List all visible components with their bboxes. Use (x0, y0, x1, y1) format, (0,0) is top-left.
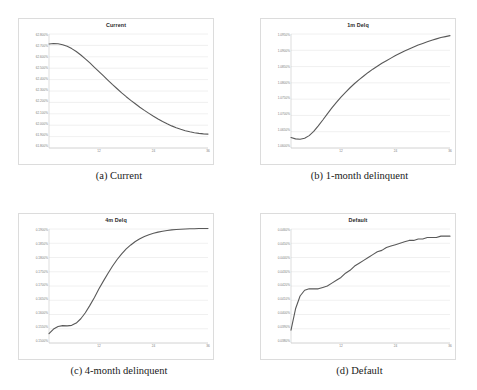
y-tick-label: 0.0430% (278, 270, 290, 273)
y-tick-label: 0.0400% (278, 312, 290, 315)
x-tick-label: 12 (339, 150, 342, 153)
y-tick-label: 0.1700% (36, 284, 48, 287)
x-axis-labels: 122436 (49, 345, 208, 352)
chart-panel-default: Default 0.0460%0.0450%0.0440%0.0430%0.04… (260, 213, 456, 360)
y-tick-label: 1.0600% (278, 145, 290, 148)
y-axis-labels: 1.0950%1.0900%1.0850%1.0800%1.0750%1.070… (263, 34, 290, 148)
y-tick-label: 0.1800% (36, 256, 48, 259)
y-tick-label: 0.0450% (278, 243, 290, 246)
y-tick-label: 0.0460% (278, 229, 290, 232)
y-tick-label: 0.0440% (278, 256, 290, 259)
x-tick-label: 12 (97, 345, 100, 348)
x-tick-label: 12 (339, 345, 342, 348)
y-tick-label: 1.0950% (278, 34, 290, 37)
y-tick-label: 0.1550% (36, 326, 48, 329)
plot-area (49, 229, 208, 343)
y-tick-label: 61.800% (36, 144, 48, 147)
figure-caption: (d) Default (242, 365, 477, 377)
y-tick-label: 0.0420% (278, 284, 290, 287)
chart-panel-1m-delq: 1m Delq 1.0950%1.0900%1.0850%1.0800%1.07… (260, 18, 456, 165)
chart-svg (291, 229, 450, 343)
chart-svg (49, 34, 208, 148)
figure-caption: (b) 1-month delinquent (242, 170, 477, 182)
x-tick-label: 36 (448, 345, 451, 348)
y-tick-label: 0.0410% (278, 298, 290, 301)
x-tick-label: 24 (394, 150, 397, 153)
x-tick-label: 36 (206, 150, 209, 153)
y-tick-label: 0.1750% (36, 270, 48, 273)
x-tick-label: 36 (206, 345, 209, 348)
y-tick-label: 0.1900% (36, 229, 48, 232)
x-tick-label: 24 (152, 150, 155, 153)
plot-area (291, 229, 450, 343)
y-tick-label: 62.600% (36, 56, 48, 59)
figure-grid: Current 62.800%62.700%62.600%62.500%62.4… (0, 0, 477, 390)
chart-svg (49, 229, 208, 343)
chart-title: 1m Delq (261, 23, 455, 28)
chart-svg (291, 34, 450, 148)
x-axis-labels: 122436 (49, 150, 208, 157)
series-line (291, 236, 450, 330)
y-tick-label: 62.800% (36, 34, 48, 37)
chart-panel-current: Current 62.800%62.700%62.600%62.500%62.4… (18, 18, 214, 165)
y-tick-label: 0.1600% (36, 312, 48, 315)
y-tick-label: 1.0800% (278, 81, 290, 84)
x-tick-label: 24 (394, 345, 397, 348)
y-tick-label: 1.0650% (278, 129, 290, 132)
y-tick-label: 0.1650% (36, 298, 48, 301)
y-axis-labels: 0.1900%0.1850%0.1800%0.1750%0.1700%0.165… (21, 229, 48, 343)
y-tick-label: 0.1500% (36, 340, 48, 343)
figure-cell-d: Default 0.0460%0.0450%0.0440%0.0430%0.04… (238, 195, 477, 390)
y-tick-label: 1.0900% (278, 50, 290, 53)
y-tick-label: 1.0750% (278, 97, 290, 100)
chart-title: 4m Delq (19, 218, 213, 223)
x-tick-label: 36 (448, 150, 451, 153)
series-line (49, 44, 208, 135)
figure-caption: (a) Current (0, 170, 238, 182)
chart-panel-4m-delq: 4m Delq 0.1900%0.1850%0.1800%0.1750%0.17… (18, 213, 214, 360)
figure-cell-b: 1m Delq 1.0950%1.0900%1.0850%1.0800%1.07… (238, 0, 477, 195)
y-tick-label: 62.700% (36, 45, 48, 48)
y-tick-label: 62.200% (36, 100, 48, 103)
y-tick-label: 62.100% (36, 111, 48, 114)
y-tick-label: 1.0700% (278, 113, 290, 116)
plot-area (291, 34, 450, 148)
x-axis-labels: 122436 (291, 345, 450, 352)
figure-caption: (c) 4-month delinquent (0, 365, 238, 377)
y-tick-label: 0.1850% (36, 243, 48, 246)
y-tick-label: 0.0390% (278, 326, 290, 329)
y-tick-label: 62.500% (36, 67, 48, 70)
y-tick-label: 0.0380% (278, 340, 290, 343)
figure-cell-a: Current 62.800%62.700%62.600%62.500%62.4… (0, 0, 238, 195)
x-tick-label: 12 (97, 150, 100, 153)
chart-title: Default (261, 218, 455, 223)
y-tick-label: 62.000% (36, 122, 48, 125)
figure-cell-c: 4m Delq 0.1900%0.1850%0.1800%0.1750%0.17… (0, 195, 238, 390)
chart-title: Current (19, 23, 213, 28)
y-tick-label: 1.0850% (278, 65, 290, 68)
x-tick-label: 24 (152, 345, 155, 348)
plot-area (49, 34, 208, 148)
y-tick-label: 62.300% (36, 89, 48, 92)
series-line (49, 228, 208, 333)
y-axis-labels: 0.0460%0.0450%0.0440%0.0430%0.0420%0.041… (263, 229, 290, 343)
series-line (291, 36, 450, 140)
y-tick-label: 62.400% (36, 78, 48, 81)
x-axis-labels: 122436 (291, 150, 450, 157)
y-tick-label: 61.900% (36, 133, 48, 136)
y-axis-labels: 62.800%62.700%62.600%62.500%62.400%62.30… (21, 34, 48, 148)
